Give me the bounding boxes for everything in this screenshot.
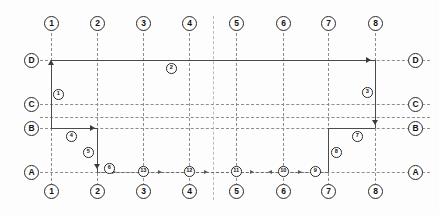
axis-bubble-left-a[interactable]: A xyxy=(24,165,39,180)
axis-bubble-right-d[interactable]: D xyxy=(408,53,423,68)
axis-bubble-bottom-3[interactable]: 3 xyxy=(136,184,151,199)
axis-bubble-left-c[interactable]: C xyxy=(24,97,39,112)
step-marker-8[interactable]: 8 xyxy=(331,147,342,158)
axis-bubble-right-c[interactable]: C xyxy=(408,97,423,112)
route-arrow-right-at-b2 xyxy=(90,125,95,131)
route-segment-8-vertical xyxy=(328,128,329,172)
route-arrow-up-at-d xyxy=(48,60,54,65)
axis-bubble-bottom-1[interactable]: 1 xyxy=(44,184,59,199)
step-marker-10[interactable]: 10 xyxy=(278,166,289,177)
axis-bubble-left-b[interactable]: B xyxy=(24,121,39,136)
axis-bubble-left-d[interactable]: D xyxy=(24,53,39,68)
axis-bubble-top-2[interactable]: 2 xyxy=(90,16,105,31)
axis-bubble-bottom-4[interactable]: 4 xyxy=(182,184,197,199)
route-arrow-a-3 xyxy=(204,170,208,174)
axis-bubble-top-7[interactable]: 7 xyxy=(321,16,336,31)
axis-bubble-top-4[interactable]: 4 xyxy=(182,16,197,31)
route-arrow-down-at-b8 xyxy=(372,120,378,125)
axis-bubble-top-5[interactable]: 5 xyxy=(229,16,244,31)
axis-bubble-top-6[interactable]: 6 xyxy=(276,16,291,31)
axis-bubble-right-a[interactable]: A xyxy=(408,165,423,180)
route-segment-2-horizontal xyxy=(51,60,375,61)
route-arrow-a-4 xyxy=(250,170,254,174)
route-arrow-a-6 xyxy=(298,170,302,174)
route-segment-3-vertical xyxy=(375,60,376,128)
route-arrow-a-2 xyxy=(158,170,162,174)
gridline-row-c-offset xyxy=(40,117,430,118)
step-marker-3[interactable]: 3 xyxy=(362,87,373,98)
step-marker-1[interactable]: 1 xyxy=(53,89,64,100)
step-marker-7[interactable]: 7 xyxy=(352,131,363,142)
step-marker-5[interactable]: 5 xyxy=(83,147,94,158)
step-marker-6[interactable]: 6 xyxy=(104,163,115,174)
axis-bubble-bottom-2[interactable]: 2 xyxy=(90,184,105,199)
step-marker-11[interactable]: 11 xyxy=(231,166,242,177)
axis-bubble-top-8[interactable]: 8 xyxy=(368,16,383,31)
route-segment-7-horizontal xyxy=(328,128,375,129)
gridline-row-c xyxy=(40,104,430,105)
axis-bubble-bottom-7[interactable]: 7 xyxy=(321,184,336,199)
step-marker-13[interactable]: 13 xyxy=(138,166,149,177)
grid-diagram-canvas: 1 2 3 4 5 6 7 8 1 2 3 4 5 6 7 8 D C B A … xyxy=(0,0,439,215)
axis-bubble-top-3[interactable]: 3 xyxy=(136,16,151,31)
route-arrow-down-at-a2 xyxy=(94,164,100,169)
axis-bubble-bottom-6[interactable]: 6 xyxy=(276,184,291,199)
axis-bubble-bottom-5[interactable]: 5 xyxy=(229,184,244,199)
route-arrow-a-5 xyxy=(268,170,272,174)
step-marker-9[interactable]: 9 xyxy=(310,166,321,177)
route-path-row-a xyxy=(97,172,328,173)
axis-bubble-right-b[interactable]: B xyxy=(408,121,423,136)
step-marker-4[interactable]: 4 xyxy=(66,131,77,142)
axis-bubble-bottom-8[interactable]: 8 xyxy=(368,184,383,199)
step-marker-2[interactable]: 2 xyxy=(166,63,177,74)
step-marker-12[interactable]: 12 xyxy=(184,166,195,177)
axis-bubble-top-1[interactable]: 1 xyxy=(44,16,59,31)
route-arrow-right-at-d8 xyxy=(366,57,371,63)
